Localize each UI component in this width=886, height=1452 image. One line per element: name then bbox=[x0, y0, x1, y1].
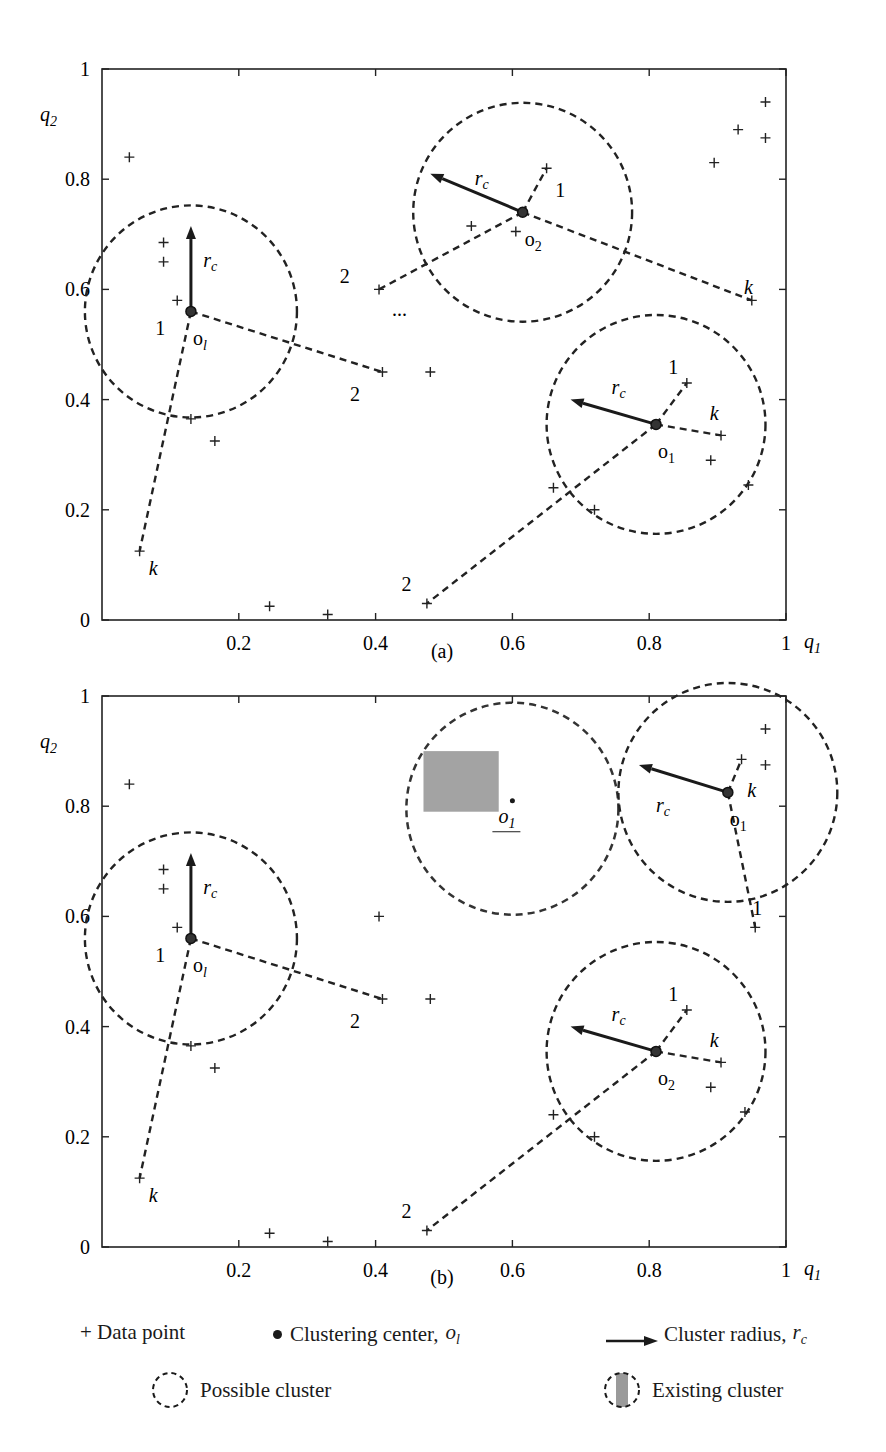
data-point-icon bbox=[760, 760, 770, 770]
center-label: o2 bbox=[525, 228, 542, 254]
distance-line bbox=[140, 938, 191, 1178]
x-tick-label: 0.2 bbox=[226, 632, 251, 654]
data-point-icon bbox=[548, 1110, 558, 1120]
data-point-icon bbox=[760, 724, 770, 734]
x-axis-title: q1 bbox=[804, 1257, 821, 1283]
data-point-icon bbox=[159, 884, 169, 894]
y-tick-label: 1 bbox=[80, 685, 90, 707]
radius-symbol: r bbox=[792, 1320, 800, 1344]
data-point-icon bbox=[186, 414, 196, 424]
data-point-icon bbox=[186, 1041, 196, 1051]
annotation-label: ... bbox=[392, 298, 407, 320]
distance-line bbox=[656, 1051, 721, 1062]
distance-rank-label: k bbox=[747, 779, 757, 801]
data-point-icon bbox=[374, 911, 384, 921]
data-point-icon bbox=[716, 1057, 726, 1067]
data-point-icon bbox=[422, 598, 432, 608]
data-point-icon bbox=[172, 295, 182, 305]
center-dot-icon bbox=[273, 1330, 282, 1339]
y-tick-label: 0.8 bbox=[65, 168, 90, 190]
y-tick-label: 0.2 bbox=[65, 1126, 90, 1148]
dashed-circle-icon bbox=[150, 1370, 190, 1410]
center-label: ol bbox=[193, 327, 207, 353]
legend-data-point-label: + Data point bbox=[80, 1320, 185, 1345]
data-point-icon bbox=[466, 221, 476, 231]
x-tick-label: 0.4 bbox=[363, 632, 388, 654]
rc-label: rc bbox=[203, 876, 218, 901]
cluster-center-dot bbox=[186, 933, 196, 943]
arrow-head-icon bbox=[571, 398, 585, 408]
data-point-icon bbox=[682, 1005, 692, 1015]
data-point-icon bbox=[374, 284, 384, 294]
data-point-icon bbox=[159, 865, 169, 875]
distance-line bbox=[191, 938, 383, 999]
data-point-icon bbox=[210, 436, 220, 446]
distance-line bbox=[427, 1051, 656, 1230]
data-point-icon bbox=[323, 1236, 333, 1246]
legend-radius-symbol: rc bbox=[792, 1320, 806, 1348]
y-tick-label: 0.8 bbox=[65, 795, 90, 817]
legend-possible-cluster-label: Possible cluster bbox=[200, 1378, 331, 1403]
data-point-icon bbox=[124, 779, 134, 789]
cluster-center-dot bbox=[651, 1046, 661, 1056]
legend-existing-cluster-label: Existing cluster bbox=[652, 1378, 783, 1403]
data-point-icon bbox=[323, 609, 333, 619]
data-point-icon bbox=[760, 133, 770, 143]
annotation-label: 1 bbox=[155, 317, 165, 339]
existing-cluster-region bbox=[423, 751, 498, 812]
distance-rank-label: 1 bbox=[668, 983, 678, 1005]
center-symbol: o bbox=[445, 1320, 456, 1344]
distance-line bbox=[379, 212, 523, 289]
x-tick-label: 0.4 bbox=[363, 1259, 388, 1281]
rc-label: rc bbox=[612, 1003, 627, 1028]
data-point-icon bbox=[760, 97, 770, 107]
distance-line bbox=[656, 1010, 687, 1051]
distance-rank-label: 1 bbox=[752, 897, 762, 919]
data-point-icon bbox=[377, 994, 387, 1004]
data-point-icon bbox=[124, 152, 134, 162]
panel-b-plot: o10.20.40.60.8100.20.40.60.81q1q2(b)2kk1… bbox=[40, 683, 837, 1289]
data-point-icon bbox=[265, 1228, 275, 1238]
x-tick-label: 0.8 bbox=[637, 1259, 662, 1281]
data-point-icon bbox=[172, 922, 182, 932]
center-label: o1 bbox=[658, 440, 675, 466]
arrow-head-icon bbox=[186, 853, 196, 866]
shaded-dashed-circle-icon bbox=[602, 1370, 642, 1410]
rc-label: rc bbox=[203, 249, 218, 274]
radius-symbol-sub: c bbox=[801, 1332, 807, 1347]
data-point-icon bbox=[548, 483, 558, 493]
radius-arrow bbox=[583, 403, 656, 424]
data-point-icon bbox=[709, 158, 719, 168]
center-label: o2 bbox=[658, 1067, 675, 1093]
legend-possible-cluster: Possible cluster bbox=[150, 1370, 331, 1410]
y-tick-label: 0.4 bbox=[65, 389, 90, 411]
distance-rank-label: 2 bbox=[350, 383, 360, 405]
data-point-icon bbox=[733, 125, 743, 135]
legend-existing-cluster: Existing cluster bbox=[602, 1370, 783, 1410]
arrow-head-icon bbox=[571, 1025, 585, 1035]
x-axis-title: q1 bbox=[804, 630, 821, 656]
legend-data-point: + Data point bbox=[80, 1320, 185, 1345]
cluster-center-dot bbox=[723, 787, 733, 797]
cluster-center-dot bbox=[518, 207, 528, 217]
data-point-icon bbox=[542, 163, 552, 173]
distance-rank-label: k bbox=[149, 1184, 159, 1206]
y-tick-label: 0.2 bbox=[65, 499, 90, 521]
y-tick-label: 1 bbox=[80, 58, 90, 80]
panel-a-plot: 0.20.40.60.8100.20.40.60.81q1q2(a)2k12k1… bbox=[40, 58, 821, 663]
y-tick-label: 0.4 bbox=[65, 1016, 90, 1038]
data-point-icon bbox=[265, 601, 275, 611]
data-point-icon bbox=[135, 546, 145, 556]
legend-center-symbol: ol bbox=[445, 1320, 459, 1348]
rc-label: rc bbox=[656, 794, 671, 819]
data-point-icon bbox=[750, 922, 760, 932]
data-point-icon bbox=[682, 378, 692, 388]
arrow-head-icon bbox=[430, 174, 444, 184]
existing-center-label: o1 bbox=[498, 805, 515, 831]
distance-rank-label: k bbox=[710, 1029, 720, 1051]
y-axis-title: q2 bbox=[40, 103, 57, 129]
distance-line bbox=[656, 424, 721, 435]
center-label: o1 bbox=[730, 808, 747, 834]
data-point-icon bbox=[159, 257, 169, 267]
cluster-center-dot bbox=[651, 419, 661, 429]
